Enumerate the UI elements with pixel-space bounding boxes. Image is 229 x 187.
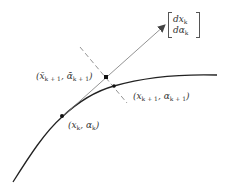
sub: k + 1 bbox=[45, 75, 61, 82]
predictor-point-marker bbox=[104, 75, 108, 79]
dalpha-sub: k bbox=[185, 29, 189, 36]
paren: ) bbox=[96, 120, 100, 130]
paren: ) bbox=[186, 91, 190, 101]
dalpha-text: dα bbox=[173, 25, 185, 35]
tangent-vector-label: dxk dαk bbox=[168, 12, 200, 38]
tangent-dx: dxk bbox=[173, 15, 187, 25]
tangent-dalpha: dαk bbox=[173, 26, 188, 36]
corrector-point-label: (xk + 1, αk + 1) bbox=[133, 92, 190, 102]
current-point-marker bbox=[60, 114, 64, 118]
paren: ) bbox=[89, 71, 93, 81]
dx-text: dx bbox=[173, 14, 184, 24]
tangent-arrow bbox=[62, 25, 165, 117]
current-point-label: (xk, αk) bbox=[68, 121, 99, 131]
dx-sub: k bbox=[184, 18, 188, 25]
predictor-point-label: (x̄k + 1, ᾱk + 1) bbox=[36, 72, 93, 82]
sub: k + 1 bbox=[142, 95, 158, 102]
corrector-point-marker bbox=[112, 84, 116, 88]
sub: k + 1 bbox=[170, 95, 186, 102]
sub: k + 1 bbox=[73, 75, 89, 82]
